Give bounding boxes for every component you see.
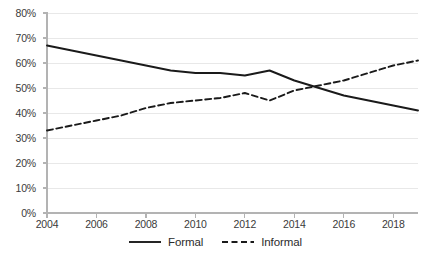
chart-legend: FormalInformal (0, 236, 430, 248)
legend-label: Formal (168, 236, 203, 248)
x-axis: 20042006200820102012201420162018 (0, 0, 430, 266)
x-tick-label: 2016 (324, 218, 364, 230)
x-tick-label: 2008 (126, 218, 166, 230)
line-chart: 80%70%60%50%40%30%20%10%0% 2004200620082… (0, 0, 430, 266)
x-tick-label: 2018 (373, 218, 413, 230)
legend-swatch-solid-icon (128, 237, 162, 247)
legend-item-informal: Informal (221, 236, 302, 248)
x-tick-label: 2014 (274, 218, 314, 230)
legend-swatch-dashed-icon (221, 237, 255, 247)
x-tick-label: 2012 (225, 218, 265, 230)
x-tick-label: 2006 (76, 218, 116, 230)
x-tick-label: 2004 (27, 218, 67, 230)
legend-label: Informal (261, 236, 302, 248)
legend-item-formal: Formal (128, 236, 203, 248)
x-tick-label: 2010 (175, 218, 215, 230)
